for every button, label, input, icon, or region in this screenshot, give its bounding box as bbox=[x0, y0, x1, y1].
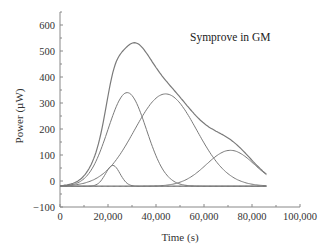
x-tick-label: 60,000 bbox=[190, 211, 219, 222]
y-tick-label: 100 bbox=[39, 150, 55, 161]
x-tick-label: 0 bbox=[57, 211, 62, 222]
x-tick-label: 100,000 bbox=[283, 211, 317, 222]
x-tick-label: 40,000 bbox=[142, 211, 171, 222]
y-tick-label: 400 bbox=[39, 72, 55, 83]
y-tick-label: −100 bbox=[33, 202, 55, 213]
total-curve bbox=[60, 43, 266, 186]
y-tick-label: 0 bbox=[50, 176, 55, 187]
chart: −1000100200300400500600020,00040,00060,0… bbox=[0, 0, 333, 250]
axes: −1000100200300400500600020,00040,00060,0… bbox=[33, 12, 317, 222]
component-curve-1 bbox=[60, 165, 266, 186]
x-tick-label: 20,000 bbox=[94, 211, 123, 222]
chart-annotation: Symprove in GM bbox=[190, 31, 271, 44]
x-axis-title: Time (s) bbox=[161, 231, 199, 244]
component-curve-3 bbox=[60, 94, 266, 186]
component-curve-2 bbox=[60, 93, 266, 187]
curves bbox=[60, 43, 266, 187]
y-tick-label: 500 bbox=[39, 46, 55, 57]
y-tick-label: 300 bbox=[39, 98, 55, 109]
x-tick-label: 80,000 bbox=[238, 211, 267, 222]
y-tick-label: 200 bbox=[39, 124, 55, 135]
y-axis-title: Power (µW) bbox=[13, 88, 26, 143]
y-tick-label: 600 bbox=[39, 20, 55, 31]
